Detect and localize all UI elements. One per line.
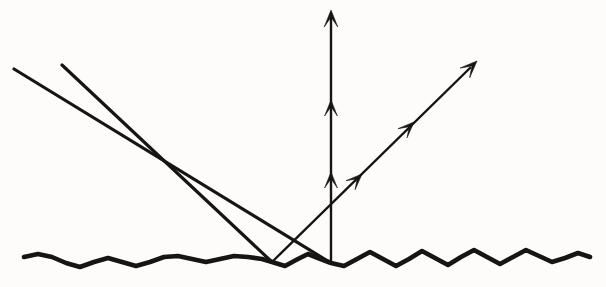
incident-ray-left bbox=[14, 69, 331, 263]
reflected-ray-vertical-group bbox=[324, 10, 338, 263]
incident-ray-group bbox=[14, 65, 331, 263]
reflected-ray-diagonal-group bbox=[272, 56, 482, 262]
rough-surface-line bbox=[24, 250, 590, 267]
incident-ray-right bbox=[62, 65, 272, 262]
diagram-canvas bbox=[0, 0, 606, 287]
reflection-diagram-figure bbox=[0, 0, 606, 287]
reflected-ray-diagonal bbox=[272, 68, 470, 262]
